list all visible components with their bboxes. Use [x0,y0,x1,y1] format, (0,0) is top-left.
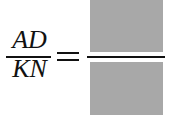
right-denominator-blank-box[interactable] [90,62,163,115]
left-numerator: AD [8,27,51,53]
right-numerator-blank-box[interactable] [90,0,163,52]
right-fraction-bar [87,56,165,58]
equals-sign [57,50,79,63]
left-denominator: KN [8,56,51,82]
